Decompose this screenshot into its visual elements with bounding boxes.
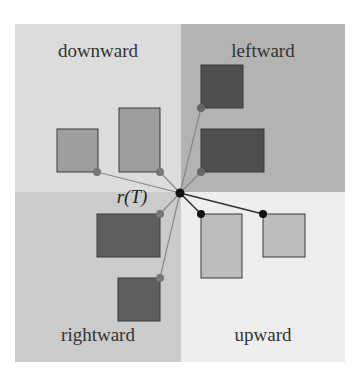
box-left-1 [201,65,243,108]
anchor-down-1 [93,168,101,176]
box-up-1 [201,214,242,278]
quadrant-label-rightward: rightward [61,324,135,345]
anchor-right-2 [156,274,164,282]
box-up-2 [263,214,305,257]
anchor-left-2 [197,168,205,176]
quadrant-label-upward: upward [235,324,292,345]
box-down-1 [57,129,98,172]
box-right-1 [97,214,160,257]
quadrant-label-leftward: leftward [231,40,295,61]
root-node [176,189,185,198]
anchor-left-1 [197,104,205,112]
quadrant-label-downward: downward [58,40,139,61]
box-left-2 [201,129,264,172]
root-label: r(T) [117,186,148,208]
anchor-down-2 [156,168,164,176]
box-down-2 [119,108,160,172]
box-right-2 [118,278,160,321]
anchor-up-2 [259,210,267,218]
anchor-up-1 [197,210,205,218]
quadrant-diagram: r(T) downwardleftwardrightwardupward [0,0,364,380]
anchor-right-1 [156,210,164,218]
